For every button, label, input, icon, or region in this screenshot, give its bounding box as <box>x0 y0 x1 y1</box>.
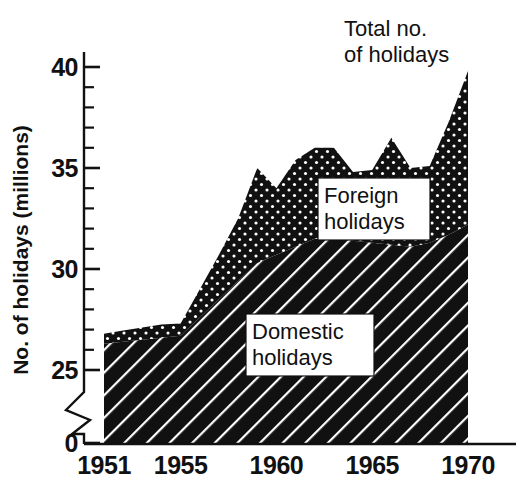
x-axis-tick-label: 1965 <box>345 451 399 479</box>
foreign-label-line2: holidays <box>324 209 405 234</box>
domestic-label-line1: Domestic <box>252 319 344 344</box>
x-axis-tick-label: 1970 <box>441 451 495 479</box>
y-axis-tick-label: 0 <box>65 429 78 457</box>
y-axis-tick-label: 30 <box>51 255 78 283</box>
foreign-holidays-label: Foreign holidays <box>318 178 430 240</box>
chart-container: 025303540 No. of holidays (millions) 195… <box>0 0 532 498</box>
area-chart: 025303540 No. of holidays (millions) 195… <box>0 0 532 498</box>
y-axis-tick-label: 35 <box>51 154 78 182</box>
y-axis-title: No. of holidays (millions) <box>9 125 32 375</box>
x-axis-tick-label: 1951 <box>77 451 131 479</box>
x-axis-tick-label: 1955 <box>154 451 208 479</box>
total-annotation-line2: of holidays <box>344 42 449 67</box>
y-axis-tick-label: 25 <box>51 356 78 384</box>
x-axis-tick-label: 1960 <box>250 451 304 479</box>
foreign-label-line1: Foreign <box>324 183 399 208</box>
domestic-label-line2: holidays <box>252 345 333 370</box>
total-annotation-line1: Total no. <box>344 16 427 41</box>
domestic-holidays-label: Domestic holidays <box>246 314 374 376</box>
y-axis-tick-label: 40 <box>51 53 78 81</box>
